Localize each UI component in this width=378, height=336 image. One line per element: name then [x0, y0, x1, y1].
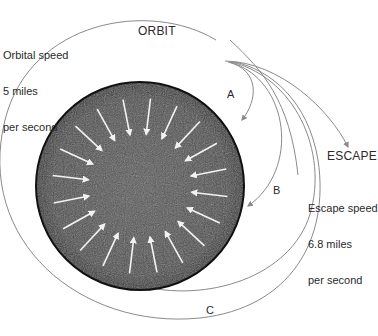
escape-speed-line1: Escape speed	[308, 202, 378, 214]
trajectory-a-label: A	[227, 88, 234, 100]
orbit-title: ORBIT	[138, 25, 176, 37]
orbital-speed-line1: Orbital speed	[3, 49, 68, 61]
escape-speed-line3: per second	[308, 274, 378, 286]
orbital-speed-line2: 5 miles	[3, 85, 68, 97]
trajectory-b-label: B	[273, 184, 280, 196]
escape-speed-line2: 6.8 miles	[308, 238, 378, 250]
trajectory-c-label: C	[206, 304, 214, 316]
orbital-speed-label: Orbital speed 5 miles per second	[3, 25, 68, 145]
escape-title: ESCAPE	[327, 150, 377, 162]
orbital-speed-line3: per second	[3, 121, 68, 133]
escape-speed-label: Escape speed 6.8 miles per second	[308, 178, 378, 298]
escape-path	[225, 61, 348, 147]
